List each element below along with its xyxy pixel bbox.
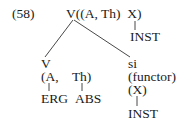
right-arg: (X): [128, 83, 147, 96]
root-node: V((A, Th) X): [66, 7, 141, 20]
right-arg-case: INST: [128, 107, 158, 120]
left-args: (A, Th): [41, 70, 91, 83]
case-abs: ABS: [75, 92, 101, 105]
branch-left: [45, 20, 73, 57]
example-number: (58): [12, 7, 35, 20]
branch-right: [74, 20, 130, 57]
root-x-case: INST: [130, 30, 160, 43]
case-erg: ERG: [41, 92, 68, 105]
